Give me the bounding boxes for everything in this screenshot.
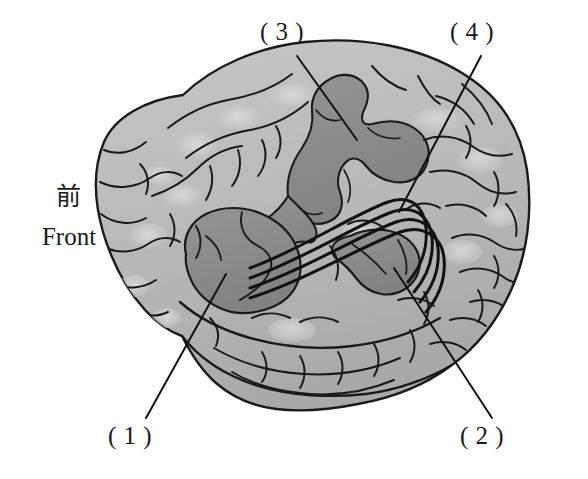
brain-diagram xyxy=(0,0,588,479)
brain-cortex xyxy=(96,40,529,410)
